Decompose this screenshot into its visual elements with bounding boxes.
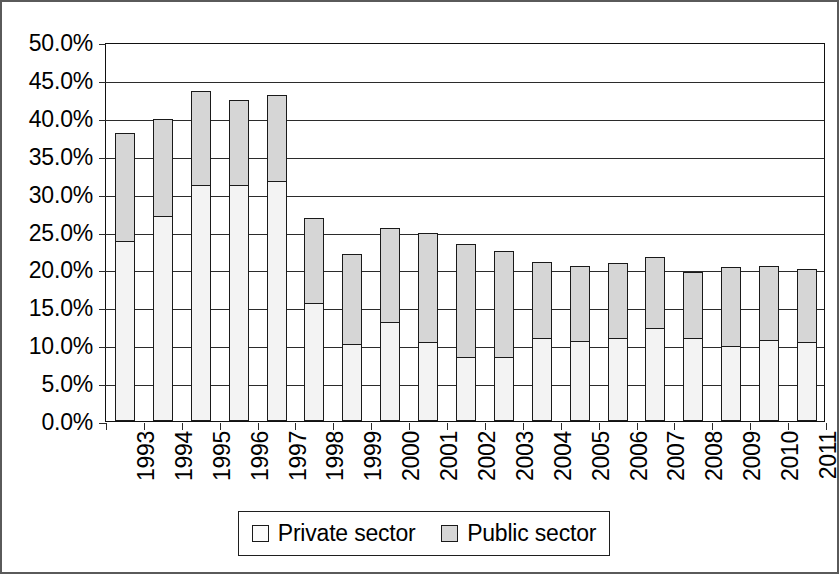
bar-slot — [144, 44, 182, 421]
stacked-bar[interactable] — [267, 95, 287, 421]
bar-segment-private-sector[interactable] — [683, 338, 703, 421]
y-axis-tick — [99, 82, 106, 83]
bar-segment-public-sector[interactable] — [759, 266, 779, 342]
bar-segment-private-sector[interactable] — [721, 346, 741, 421]
bar-segment-private-sector[interactable] — [494, 357, 514, 421]
bar-segment-private-sector[interactable] — [153, 216, 173, 421]
x-axis-tick — [599, 423, 600, 430]
bar-slot — [523, 44, 561, 421]
bar-segment-private-sector[interactable] — [191, 185, 211, 421]
stacked-bar[interactable] — [570, 266, 590, 422]
bar-segment-public-sector[interactable] — [342, 254, 362, 345]
stacked-bar[interactable] — [532, 262, 552, 421]
legend-swatch-public-icon — [441, 525, 458, 542]
x-axis-label: 2000 — [400, 431, 423, 481]
bar-segment-public-sector[interactable] — [570, 266, 590, 343]
x-axis-tick — [637, 423, 638, 430]
bar-segment-public-sector[interactable] — [608, 263, 628, 339]
x-axis-label: 1996 — [249, 431, 272, 481]
stacked-bar[interactable] — [115, 133, 135, 421]
bar-segment-public-sector[interactable] — [304, 218, 324, 304]
bar-segment-private-sector[interactable] — [759, 340, 779, 421]
x-axis-label: 2004 — [552, 431, 575, 481]
bar-segment-private-sector[interactable] — [342, 344, 362, 421]
stacked-bar[interactable] — [759, 266, 779, 422]
bar-slot — [220, 44, 258, 421]
bar-segment-public-sector[interactable] — [532, 262, 552, 339]
bar-slot — [333, 44, 371, 421]
bar-segment-public-sector[interactable] — [494, 251, 514, 358]
bar-segment-public-sector[interactable] — [191, 91, 211, 187]
bar-segment-private-sector[interactable] — [570, 341, 590, 421]
x-axis-label: 2011 — [817, 431, 839, 479]
legend-item[interactable]: Private sector — [252, 522, 416, 545]
stacked-bar[interactable] — [494, 251, 514, 421]
bar-segment-public-sector[interactable] — [153, 119, 173, 218]
bar-segment-public-sector[interactable] — [645, 257, 665, 329]
bar-segment-private-sector[interactable] — [456, 357, 476, 421]
bar-slot — [447, 44, 485, 421]
bar-series-group — [106, 44, 824, 421]
x-axis-tick — [712, 423, 713, 430]
bar-segment-private-sector[interactable] — [115, 241, 135, 421]
x-axis-tick — [674, 423, 675, 430]
x-axis-tick — [447, 423, 448, 430]
bar-segment-private-sector[interactable] — [229, 185, 249, 421]
x-axis-label: 2003 — [514, 431, 537, 481]
stacked-bar[interactable] — [380, 228, 400, 421]
y-axis-label: 20.0% — [29, 259, 93, 282]
bar-segment-private-sector[interactable] — [608, 338, 628, 421]
stacked-bar[interactable] — [153, 119, 173, 421]
x-axis-label: 1993 — [135, 431, 158, 481]
x-axis-tick — [333, 423, 334, 430]
bar-segment-public-sector[interactable] — [456, 244, 476, 358]
x-axis-tick — [485, 423, 486, 430]
stacked-bar[interactable] — [797, 269, 817, 421]
x-axis-label: 2005 — [590, 431, 613, 481]
y-axis-tick — [99, 423, 106, 424]
bar-segment-private-sector[interactable] — [304, 303, 324, 421]
x-axis-tick — [371, 423, 372, 430]
stacked-bar[interactable] — [608, 263, 628, 421]
stacked-bar[interactable] — [191, 91, 211, 421]
x-axis-label: 2008 — [703, 431, 726, 481]
y-axis-tick — [99, 234, 106, 235]
bar-segment-public-sector[interactable] — [267, 95, 287, 182]
bar-slot — [674, 44, 712, 421]
bar-segment-public-sector[interactable] — [418, 233, 438, 344]
bar-segment-public-sector[interactable] — [380, 228, 400, 324]
stacked-bar[interactable] — [645, 257, 665, 421]
bar-segment-public-sector[interactable] — [229, 100, 249, 186]
bar-segment-private-sector[interactable] — [797, 342, 817, 421]
bar-segment-private-sector[interactable] — [532, 338, 552, 421]
legend-item[interactable]: Public sector — [441, 522, 596, 545]
x-axis-label: 2002 — [476, 431, 499, 481]
bar-slot — [371, 44, 409, 421]
bar-segment-private-sector[interactable] — [418, 342, 438, 421]
bar-segment-private-sector[interactable] — [267, 181, 287, 421]
legend-swatch-private-icon — [252, 525, 269, 542]
y-axis-label: 25.0% — [29, 221, 93, 244]
bar-segment-private-sector[interactable] — [380, 322, 400, 421]
stacked-bar[interactable] — [456, 244, 476, 421]
y-axis-label: 35.0% — [29, 145, 93, 168]
y-axis-label: 45.0% — [29, 69, 93, 92]
bar-segment-public-sector[interactable] — [683, 272, 703, 339]
stacked-bar[interactable] — [229, 100, 249, 422]
stacked-bar[interactable] — [683, 272, 703, 421]
bar-segment-public-sector[interactable] — [115, 133, 135, 242]
y-axis-label: 10.0% — [29, 335, 93, 358]
stacked-bar[interactable] — [342, 254, 362, 421]
bar-slot — [409, 44, 447, 421]
stacked-bar[interactable] — [418, 233, 438, 421]
bar-segment-public-sector[interactable] — [797, 269, 817, 343]
stacked-bar[interactable] — [721, 267, 741, 421]
x-axis-label: 1995 — [211, 431, 234, 481]
bar-segment-public-sector[interactable] — [721, 267, 741, 347]
y-axis-tick — [99, 44, 106, 45]
y-axis-tick — [99, 309, 106, 310]
y-axis-label: 15.0% — [29, 297, 93, 320]
bar-segment-private-sector[interactable] — [645, 328, 665, 421]
stacked-bar[interactable] — [304, 218, 324, 421]
bar-slot — [712, 44, 750, 421]
